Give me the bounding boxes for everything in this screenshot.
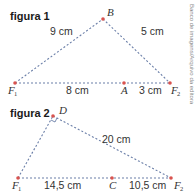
measure-a-f2: 3 cm bbox=[139, 84, 162, 96]
image-credit: Banco de imagens/Arquivo da editora bbox=[189, 4, 195, 105]
point-f2-marker bbox=[169, 176, 173, 180]
point-b-label: B bbox=[107, 6, 114, 18]
measure-f1-a: 8 cm bbox=[66, 84, 89, 96]
segment-d-f2 bbox=[53, 116, 171, 178]
point-b-marker bbox=[101, 17, 105, 21]
figure-2-title: figura 2 bbox=[10, 107, 50, 119]
measure-d-f2: 20 cm bbox=[102, 133, 131, 145]
measure-b-f2: 5 cm bbox=[141, 25, 164, 37]
point-f1-subscript: 1 bbox=[18, 185, 21, 192]
figure-2: figura 2 D F 1 C F 2 20 cm 14,5 cm 10,5 … bbox=[10, 104, 183, 192]
point-f2-subscript: 2 bbox=[180, 185, 183, 192]
measure-f1-c: 14,5 cm bbox=[44, 179, 82, 191]
measure-f1-b: 9 cm bbox=[50, 25, 73, 37]
point-f2-subscript: 2 bbox=[177, 90, 180, 97]
measure-c-f2: 10,5 cm bbox=[129, 179, 167, 191]
point-a-label: A bbox=[120, 84, 128, 96]
segment-f1-d bbox=[18, 116, 53, 178]
point-c-label: C bbox=[109, 179, 117, 191]
point-d-label: D bbox=[58, 104, 67, 116]
point-f1-subscript: 1 bbox=[14, 90, 17, 97]
figure-1-title: figura 1 bbox=[10, 10, 50, 22]
diagram-canvas: figura 1 B F 1 A F 2 9 cm 5 cm 8 cm 3 cm… bbox=[0, 0, 195, 196]
point-d-marker bbox=[51, 114, 55, 118]
figure-1: figura 1 B F 1 A F 2 9 cm 5 cm 8 cm 3 cm bbox=[7, 6, 180, 97]
